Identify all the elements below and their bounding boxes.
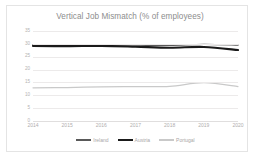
x-axis-tick-label: 2020 xyxy=(225,123,251,128)
x-axis-tick-label: 2018 xyxy=(157,123,183,128)
y-axis-tick-label: 30 xyxy=(8,42,30,47)
series-line xyxy=(33,83,238,88)
legend-label: Austria xyxy=(135,138,151,143)
y-axis-labels: 05101520253035 xyxy=(6,31,30,121)
legend-swatch-icon xyxy=(159,139,174,140)
gridline xyxy=(33,57,238,58)
legend-label: Ireland xyxy=(93,138,108,143)
x-axis-tick-label: 2017 xyxy=(123,123,149,128)
series-line xyxy=(33,46,238,50)
y-axis-tick-label: 25 xyxy=(8,54,30,59)
gridline xyxy=(33,108,238,109)
chart-legend: IrelandAustriaPortugal xyxy=(33,134,238,146)
gridline xyxy=(33,95,238,96)
legend-item[interactable]: Ireland xyxy=(76,138,108,143)
y-axis-tick-label: 5 xyxy=(8,106,30,111)
y-axis-tick-label: 15 xyxy=(8,80,30,85)
gridline xyxy=(33,82,238,83)
legend-item[interactable]: Austria xyxy=(118,138,151,143)
x-axis-tick-label: 2019 xyxy=(191,123,217,128)
x-axis-tick-label: 2015 xyxy=(54,123,80,128)
x-axis-labels: 2014201520162017201820192020 xyxy=(33,123,238,133)
chart-container: Vertical Job Mismatch (% of employees) 0… xyxy=(0,0,254,157)
gridline xyxy=(33,70,238,71)
y-axis-tick-label: 35 xyxy=(8,29,30,34)
y-axis-tick-label: 20 xyxy=(8,67,30,72)
legend-label: Portugal xyxy=(176,138,195,143)
x-axis-tick-label: 2016 xyxy=(88,123,114,128)
chart-title: Vertical Job Mismatch (% of employees) xyxy=(30,12,230,21)
plot-area xyxy=(33,31,238,121)
gridline xyxy=(33,31,238,32)
legend-item[interactable]: Portugal xyxy=(159,138,195,143)
gridline xyxy=(33,44,238,45)
y-axis-tick-label: 10 xyxy=(8,93,30,98)
legend-swatch-icon xyxy=(118,139,133,141)
x-axis-tick-label: 2014 xyxy=(20,123,46,128)
legend-swatch-icon xyxy=(76,139,91,140)
